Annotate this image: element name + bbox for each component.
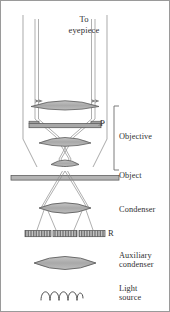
object-slide bbox=[11, 176, 119, 181]
objective-lens-middle bbox=[39, 138, 91, 147]
ray-bundle-objective-stack bbox=[35, 101, 95, 167]
label-light-source: Light source bbox=[119, 284, 141, 303]
optical-diagram-figure: To eyepiece P Objective Object Condenser… bbox=[0, 0, 170, 312]
label-phase-plate: P bbox=[100, 119, 105, 128]
auxiliary-condenser-lens bbox=[34, 257, 96, 270]
label-condenser: Condenser bbox=[119, 205, 155, 214]
label-auxiliary-condenser: Auxiliary condenser bbox=[119, 251, 154, 270]
label-annular-ring: R bbox=[108, 229, 114, 238]
condenser-lens bbox=[39, 203, 91, 214]
objective-lens-top bbox=[31, 101, 99, 110]
label-object: Object bbox=[119, 171, 142, 180]
label-to-eyepiece: To eyepiece bbox=[56, 14, 112, 35]
objective-brace bbox=[111, 105, 121, 171]
lamp-filament-coil bbox=[41, 292, 83, 300]
annular-ring-diaphragm bbox=[25, 231, 105, 237]
label-objective: Objective bbox=[119, 132, 152, 141]
phase-plate bbox=[29, 121, 105, 128]
objective-lens-front bbox=[51, 160, 79, 167]
